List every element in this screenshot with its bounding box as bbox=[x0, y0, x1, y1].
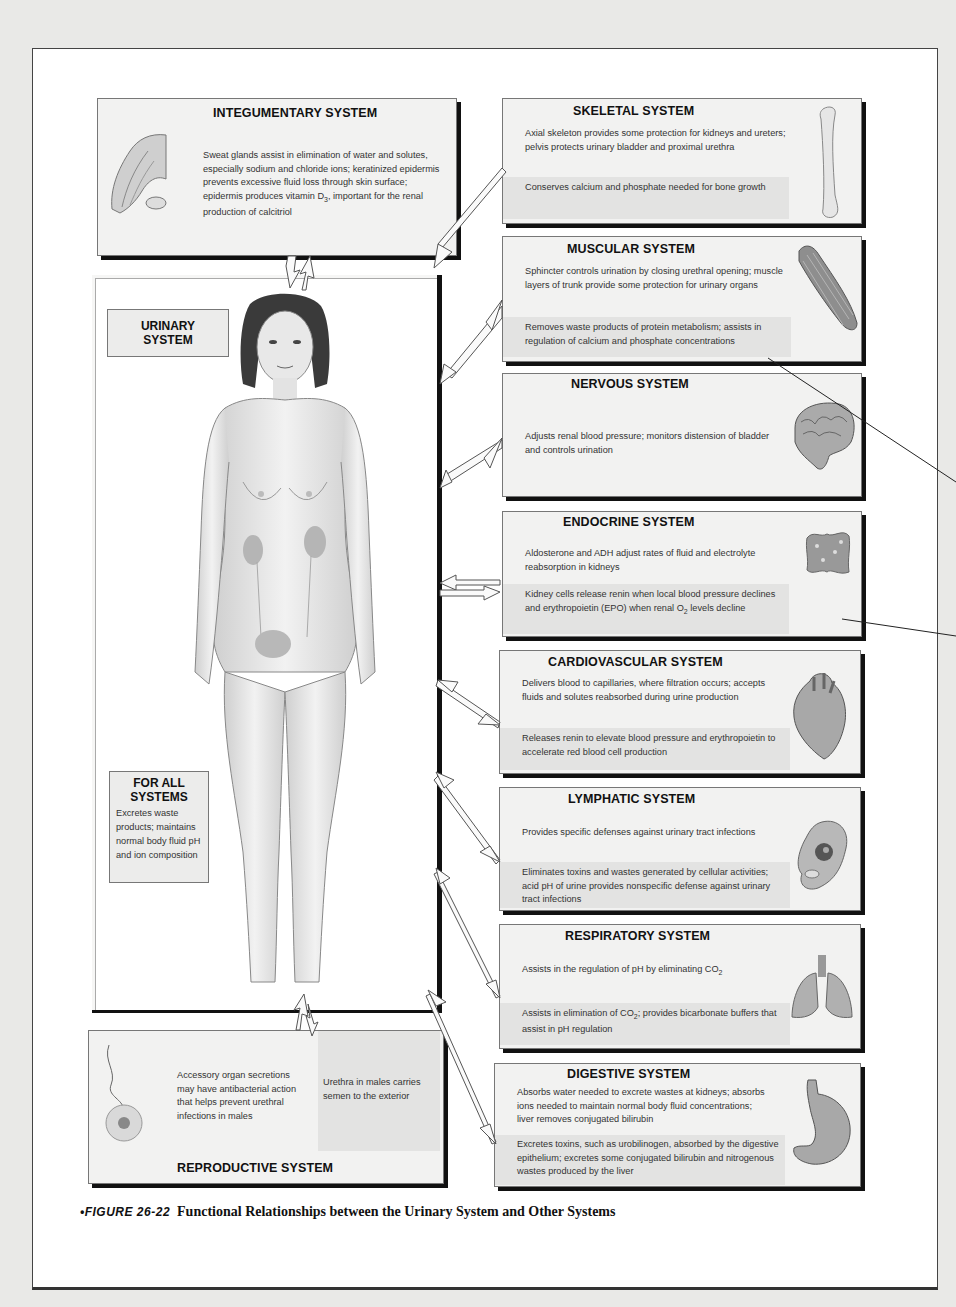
arrow-skeletal bbox=[438, 168, 506, 248]
figure-label: FIGURE 26-22 bbox=[85, 1205, 170, 1219]
arrow-integumentary bbox=[286, 256, 300, 288]
leader-line-muscular bbox=[768, 358, 956, 482]
arrow-endocrine bbox=[440, 575, 500, 590]
arrow-nervous bbox=[444, 440, 502, 484]
leader-line-endocrine bbox=[842, 619, 956, 636]
figure-title: Functional Relationships between the Uri… bbox=[177, 1204, 615, 1219]
arrow-reproductive bbox=[294, 994, 308, 1030]
arrow-digestive bbox=[426, 994, 496, 1144]
arrow-respiratory bbox=[434, 872, 500, 998]
relationship-arrows bbox=[0, 0, 956, 1307]
figure-caption: •FIGURE 26-22 Functional Relationships b… bbox=[80, 1204, 615, 1220]
